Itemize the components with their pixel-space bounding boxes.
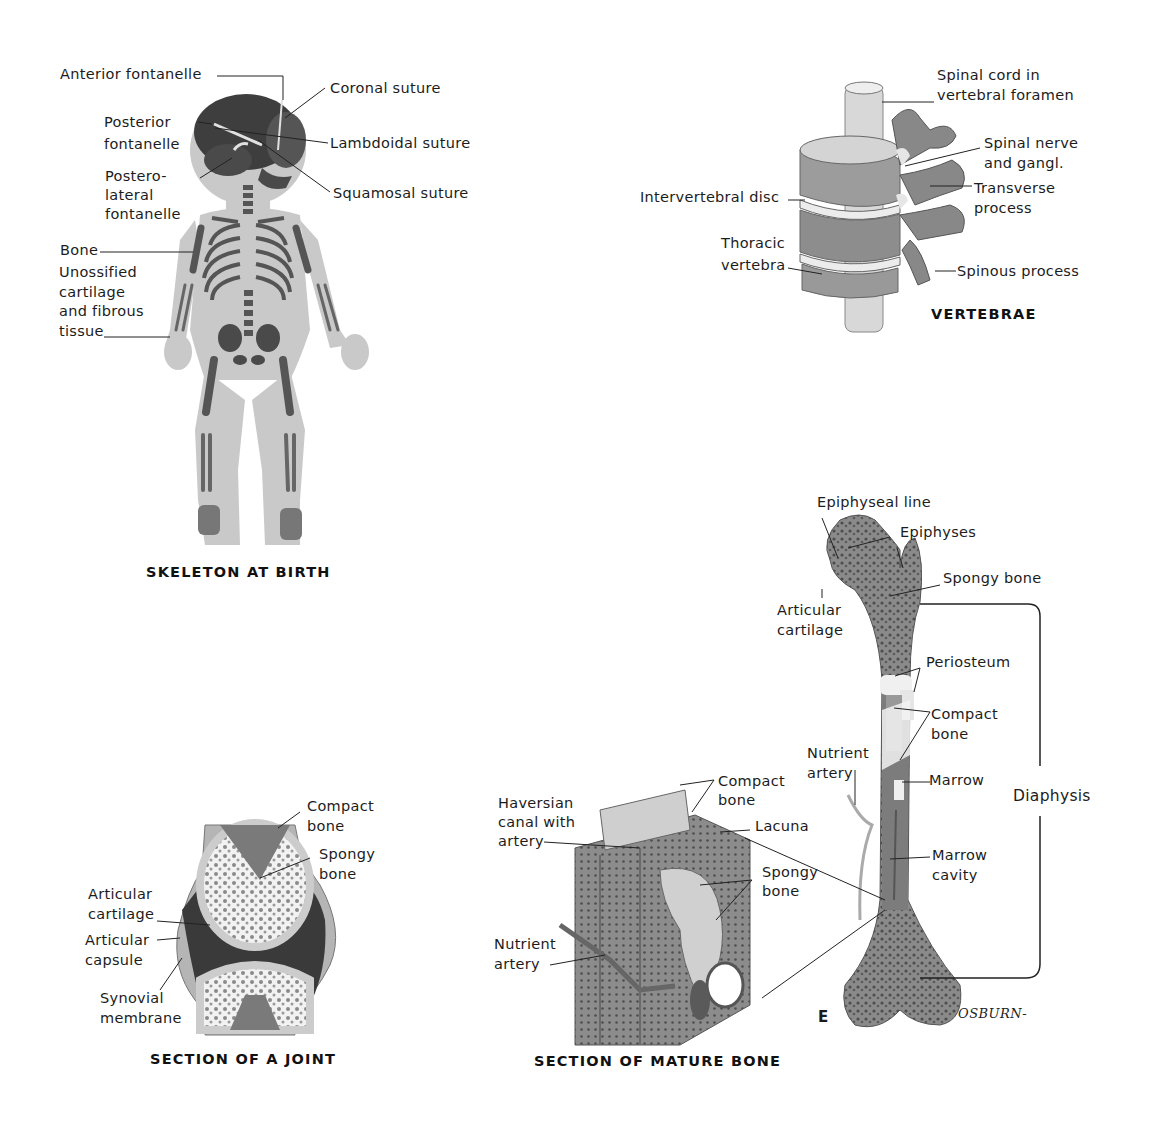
- label-compact-bone-joint: Compact bone: [307, 796, 374, 836]
- label-spinous-process: Spinous process: [957, 261, 1079, 281]
- label-posterior-fontanelle: Posterior fontanelle: [104, 111, 180, 155]
- title-vertebrae: VERTEBRAE: [931, 306, 1037, 322]
- title-section-of-mature-bone: SECTION OF MATURE BONE: [534, 1053, 781, 1069]
- label-articular-capsule: Articular capsule: [85, 930, 149, 970]
- label-coronal-suture: Coronal suture: [330, 78, 441, 98]
- label-compact-bone-section: Compact bone: [718, 772, 785, 810]
- vertebrae-illustration: [600, 0, 1153, 350]
- label-marrow: Marrow: [929, 770, 984, 790]
- section-of-joint-panel: Compact bone Spongy bone Articular carti…: [60, 790, 420, 1090]
- label-marrow-cavity: Marrow cavity: [932, 845, 987, 885]
- label-articular-cartilage-joint: Articular cartilage: [88, 884, 154, 924]
- label-spinal-nerve: Spinal nerve and gangl.: [984, 133, 1078, 173]
- label-posterolateral-fontanelle: Postero- lateral fontanelle: [105, 167, 181, 224]
- label-articular-cartilage-long: Articular cartilage: [777, 600, 843, 640]
- label-diaphysis: Diaphysis: [1013, 786, 1091, 806]
- label-thoracic-vertebra: Thoracic vertebra: [721, 232, 786, 276]
- label-intervertebral-disc: Intervertebral disc: [640, 187, 779, 207]
- label-spongy-bone-section: Spongy bone: [762, 863, 818, 901]
- title-skeleton-at-birth: SKELETON AT BIRTH: [146, 564, 331, 580]
- artist-signature: OSBURN-: [958, 1006, 1027, 1021]
- label-periosteum: Periosteum: [926, 652, 1011, 672]
- label-unossified-cartilage: Unossified cartilage and fibrous tissue: [59, 263, 144, 341]
- label-spongy-bone-joint: Spongy bone: [319, 844, 375, 884]
- label-lacuna: Lacuna: [755, 816, 809, 836]
- label-transverse-process: Transverse process: [974, 178, 1055, 218]
- label-spongy-bone-long: Spongy bone: [943, 568, 1041, 588]
- title-section-of-joint: SECTION OF A JOINT: [150, 1051, 336, 1067]
- label-synovial-membrane: Synovial membrane: [100, 988, 182, 1028]
- label-spinal-cord: Spinal cord in vertebral foramen: [937, 65, 1074, 105]
- section-of-mature-bone-panel: Haversian canal with artery Compact bone…: [480, 760, 900, 1090]
- skeleton-at-birth-panel: Anterior fontanelle Posterior fontanelle…: [0, 0, 500, 600]
- label-anterior-fontanelle: Anterior fontanelle: [60, 64, 202, 84]
- vertebrae-panel: Spinal cord in vertebral foramen Spinal …: [600, 0, 1153, 350]
- label-haversian-canal: Haversian canal with artery: [498, 794, 575, 851]
- label-nutrient-artery-section: Nutrient artery: [494, 934, 556, 974]
- label-lambdoidal-suture: Lambdoidal suture: [330, 133, 470, 153]
- label-bone: Bone: [60, 240, 98, 260]
- label-squamosal-suture: Squamosal suture: [333, 183, 469, 203]
- label-compact-bone-long: Compact bone: [931, 704, 998, 744]
- label-epiphyses: Epiphyses: [900, 522, 976, 542]
- label-epiphyseal-line: Epiphyseal line: [817, 492, 931, 512]
